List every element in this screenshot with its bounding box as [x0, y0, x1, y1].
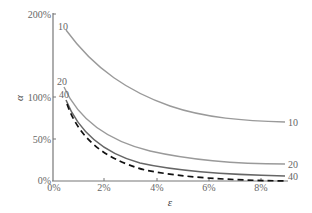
y-axis-title: α: [13, 95, 25, 101]
x-tick-label: 0%: [47, 182, 60, 193]
x-axis-title: ε: [168, 196, 173, 208]
curve-label-10-start: 10: [58, 21, 68, 32]
curve-label-40-end: 40: [288, 171, 298, 182]
curve-label-40-start: 40: [59, 89, 69, 100]
curve-label-20-end: 20: [288, 159, 298, 170]
x-tick-label: 6%: [202, 182, 215, 193]
x-tick-label: 4%: [150, 182, 163, 193]
curve-20: [64, 87, 285, 164]
curve-10: [66, 30, 285, 122]
y-tick-label-200: 200%: [28, 9, 51, 20]
y-tick-label-50: 50%: [33, 134, 51, 145]
curve-label-10-end: 10: [288, 117, 298, 128]
x-tick-label: 2%: [97, 182, 110, 193]
curve-40: [66, 100, 285, 176]
x-tick-label: 8%: [254, 182, 267, 193]
curve-label-20-start: 20: [57, 76, 67, 87]
chart: 200% 100% 50% 0% 0% 2% 4% 6% 8% ε α 10 2…: [0, 0, 312, 213]
y-tick-label-100: 100%: [28, 92, 51, 103]
